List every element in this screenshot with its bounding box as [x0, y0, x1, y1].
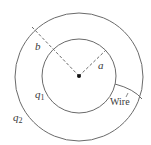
concentric-spheres-diagram: b a q1 q2 Wire — [0, 0, 151, 145]
label-q1: q1 — [35, 88, 45, 102]
label-wire: Wire — [110, 96, 130, 107]
label-q2: q2 — [13, 111, 23, 125]
q2-subscript: 2 — [19, 116, 23, 125]
label-b: b — [35, 40, 41, 52]
q1-subscript: 1 — [41, 93, 45, 102]
center-point — [77, 74, 81, 78]
label-a: a — [98, 59, 104, 71]
